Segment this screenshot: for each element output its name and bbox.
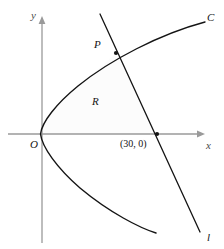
- region-r-fill: [41, 53, 157, 134]
- line-label-l: l: [207, 232, 210, 243]
- x-axis-arrowhead: [197, 131, 205, 138]
- region-label-r: R: [92, 96, 99, 107]
- y-axis-arrowhead: [39, 16, 46, 24]
- point-label-x-intercept: (30, 0): [120, 139, 147, 149]
- y-axis-label: y: [31, 10, 36, 21]
- origin-label: O: [30, 139, 38, 150]
- point-label-p: P: [94, 39, 101, 50]
- parabola-diagram: y x C l R P (30, 0) O: [0, 0, 224, 249]
- x-axis-label: x: [206, 140, 211, 151]
- diagram-canvas: [0, 0, 224, 249]
- point-x-intercept-marker: [155, 132, 159, 136]
- curve-label-c: C: [207, 12, 214, 23]
- point-p-marker: [114, 51, 118, 55]
